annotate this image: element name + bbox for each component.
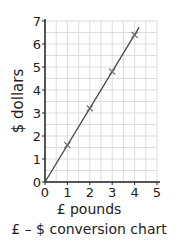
x-axis-label: £ pounds [0, 201, 178, 217]
x-tick-label: 0 [41, 185, 49, 200]
y-tick-label: 2 [33, 129, 41, 144]
x-tick-label: 4 [130, 185, 138, 200]
y-tick-label: 1 [33, 152, 41, 167]
x-tick-label: 5 [153, 185, 161, 200]
y-tick-label: 7 [33, 14, 41, 29]
y-axis-label: $ dollars [9, 61, 27, 141]
y-tick-label: 4 [33, 83, 41, 98]
chart-title: £ – $ conversion chart [0, 221, 178, 237]
x-tick-label: 2 [86, 185, 94, 200]
y-tick-label: 3 [33, 106, 41, 121]
x-tick-label: 1 [63, 185, 71, 200]
y-tick-label: 5 [33, 60, 41, 75]
y-tick-label: 6 [33, 37, 41, 52]
y-tick-label: 0 [33, 175, 41, 190]
x-tick-label: 3 [108, 185, 116, 200]
